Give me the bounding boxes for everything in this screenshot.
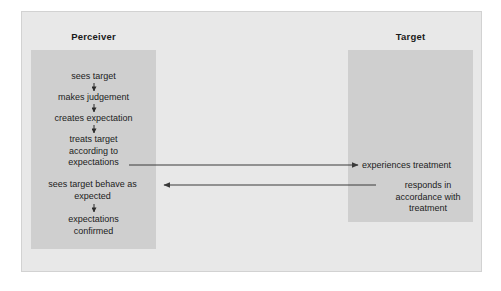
step-responds-in-accordance: responds in accordance with treatment (380, 180, 476, 215)
diagram-canvas: Perceiver Target sees target makes judge… (0, 0, 501, 291)
target-column-title: Target (348, 31, 473, 42)
perceiver-column-title: Perceiver (31, 31, 156, 42)
step-treats-target: treats target according to expectations (31, 134, 156, 169)
step-experiences-treatment: experiences treatment (362, 160, 482, 172)
step-sees-target-behave: sees target behave as expected (26, 179, 159, 202)
step-makes-judgement: makes judgement (31, 92, 156, 104)
step-creates-expectation: creates expectation (28, 113, 159, 125)
step-sees-target: sees target (31, 71, 156, 83)
step-expectations-confirmed: expectations confirmed (31, 214, 156, 237)
